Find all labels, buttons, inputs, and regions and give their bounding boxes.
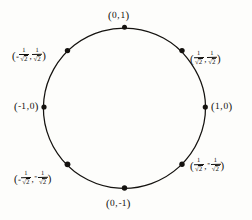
label-point-top: (0,1) xyxy=(108,10,129,21)
label-point-top-left: (-1√2,1√2) xyxy=(12,48,46,65)
paren-close: ) xyxy=(42,49,46,61)
point-top-right xyxy=(179,48,184,53)
radicand: 2 xyxy=(24,55,28,63)
point-left xyxy=(41,104,46,109)
point-bottom-left xyxy=(65,161,71,167)
radicand: 2 xyxy=(215,165,219,173)
paren-close: ) xyxy=(48,172,52,184)
fraction-y: 1√2 xyxy=(32,47,42,64)
label-point-bottom-left: (-1√2,-1√2) xyxy=(14,171,52,188)
radicand: 2 xyxy=(42,178,46,186)
paren-close: ) xyxy=(127,197,131,209)
radicand: 2 xyxy=(198,58,202,66)
point-right xyxy=(203,104,208,109)
paren-close: ) xyxy=(220,159,224,171)
point-bottom-right xyxy=(179,162,184,167)
paren-close: ) xyxy=(228,100,232,112)
paren-close: ) xyxy=(35,100,39,112)
label-point-right: (1,0) xyxy=(211,101,232,112)
point-top xyxy=(122,25,127,30)
point-bottom xyxy=(122,185,127,190)
fraction-y: 1√2 xyxy=(211,157,221,174)
label-point-bottom-right: (1√2,-1√2) xyxy=(190,158,225,175)
fraction-x: 1√2 xyxy=(194,157,204,174)
label-point-top-right: (1√2,1√2) xyxy=(190,51,221,68)
fraction-x: 1√2 xyxy=(21,170,31,187)
label-point-left: (-1,0) xyxy=(14,101,39,112)
fraction-y: 1√2 xyxy=(38,170,48,187)
fraction-y: 1√2 xyxy=(207,50,217,67)
paren-close: ) xyxy=(125,9,129,21)
radicand: 2 xyxy=(212,58,216,66)
paren-close: ) xyxy=(217,52,221,64)
fraction-x: 1√2 xyxy=(19,47,29,64)
radicand: 2 xyxy=(37,55,41,63)
fraction-x: 1√2 xyxy=(194,50,204,67)
radicand: 2 xyxy=(26,178,30,186)
radicand: 2 xyxy=(198,165,202,173)
label-point-bottom: (0,-1) xyxy=(106,198,131,209)
point-top-left xyxy=(65,48,70,53)
